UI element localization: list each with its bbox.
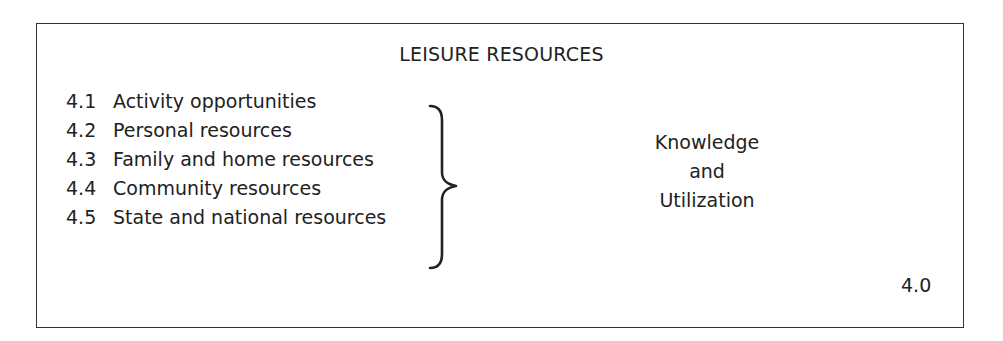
- resource-list: 4.1Activity opportunities 4.2Personal re…: [66, 87, 386, 232]
- summary-block: Knowledge and Utilization: [607, 128, 807, 215]
- item-label: Community resources: [113, 177, 321, 199]
- list-item: 4.4Community resources: [66, 174, 386, 203]
- diagram-title: LEISURE RESOURCES: [0, 41, 1003, 67]
- summary-line: Utilization: [607, 186, 807, 215]
- item-label: State and national resources: [113, 206, 386, 228]
- list-item: 4.2Personal resources: [66, 116, 386, 145]
- item-number: 4.1: [66, 87, 113, 116]
- list-item: 4.1Activity opportunities: [66, 87, 386, 116]
- item-number: 4.4: [66, 174, 113, 203]
- summary-line: Knowledge: [607, 128, 807, 157]
- item-number: 4.2: [66, 116, 113, 145]
- section-code: 4.0: [901, 272, 931, 298]
- item-label: Family and home resources: [113, 148, 374, 170]
- item-label: Activity opportunities: [113, 90, 316, 112]
- summary-line: and: [607, 157, 807, 186]
- list-item: 4.3Family and home resources: [66, 145, 386, 174]
- item-number: 4.5: [66, 203, 113, 232]
- list-item: 4.5State and national resources: [66, 203, 386, 232]
- curly-brace-icon: [426, 104, 462, 270]
- item-number: 4.3: [66, 145, 113, 174]
- item-label: Personal resources: [113, 119, 292, 141]
